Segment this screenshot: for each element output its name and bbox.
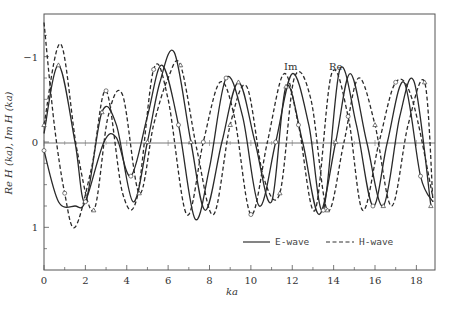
- x-tick-label: 14: [327, 275, 340, 286]
- x-tick-label: 4: [124, 275, 130, 286]
- marker-triangle: [236, 80, 240, 84]
- marker-triangle: [325, 208, 329, 212]
- marker-circle: [176, 123, 180, 127]
- marker-circle: [249, 213, 253, 217]
- y-axis-title: Re H (ka), Im H (ka): [3, 91, 14, 195]
- y-tick-label: −1: [23, 52, 38, 63]
- marker-circle: [274, 140, 278, 144]
- marker-triangle: [429, 204, 433, 208]
- curve-e-wave-im: [44, 50, 431, 214]
- marker-triangle: [189, 140, 193, 144]
- marker-triangle: [333, 140, 337, 144]
- marker-circle: [346, 114, 350, 118]
- marker-circle: [321, 208, 325, 212]
- x-tick-label: 8: [206, 275, 212, 286]
- marker-triangle: [91, 208, 95, 212]
- marker-circle: [104, 89, 108, 93]
- marker-triangle: [228, 123, 232, 127]
- x-tick-label: 16: [369, 275, 382, 286]
- plot-frame: [44, 14, 435, 270]
- x-tick-label: 18: [410, 275, 423, 286]
- y-axis-ticks: 10−1: [23, 35, 49, 248]
- x-tick-label: 10: [245, 275, 258, 286]
- x-tick-label: 6: [165, 275, 171, 286]
- marker-circle: [394, 80, 398, 84]
- x-axis-title: ka: [226, 286, 238, 297]
- x-tick-label: 2: [82, 275, 88, 286]
- legend: E-wave H-wave: [243, 236, 394, 247]
- marker-circle: [296, 123, 300, 127]
- marker-circle: [42, 149, 46, 153]
- legend-e-wave-label: E-wave: [275, 236, 310, 247]
- marker-circle: [201, 140, 205, 144]
- y-tick-label: 1: [32, 222, 38, 233]
- marker-circle: [83, 200, 87, 204]
- data-markers: [42, 63, 433, 217]
- y-tick-label: 0: [32, 137, 38, 148]
- legend-h-wave-label: H-wave: [359, 236, 394, 247]
- marker-triangle: [278, 191, 282, 195]
- marker-circle: [371, 204, 375, 208]
- marker-triangle: [56, 63, 60, 67]
- marker-triangle: [145, 140, 149, 144]
- marker-circle: [129, 174, 133, 178]
- marker-circle: [63, 191, 67, 195]
- marker-triangle: [373, 123, 377, 127]
- marker-triangle: [422, 80, 426, 84]
- annotation-im: Im: [284, 61, 298, 72]
- chart: 024681012141618 10−1 Im Re E-wave H-wave…: [0, 0, 458, 310]
- marker-circle: [152, 67, 156, 71]
- annotation-re: Re: [329, 61, 343, 72]
- marker-circle: [419, 174, 423, 178]
- marker-triangle: [178, 63, 182, 67]
- x-tick-label: 12: [286, 275, 299, 286]
- marker-circle: [224, 76, 228, 80]
- curve-h-wave-im: [44, 44, 433, 215]
- x-tick-label: 0: [41, 275, 47, 286]
- x-axis-ticks: 024681012141618: [41, 140, 423, 286]
